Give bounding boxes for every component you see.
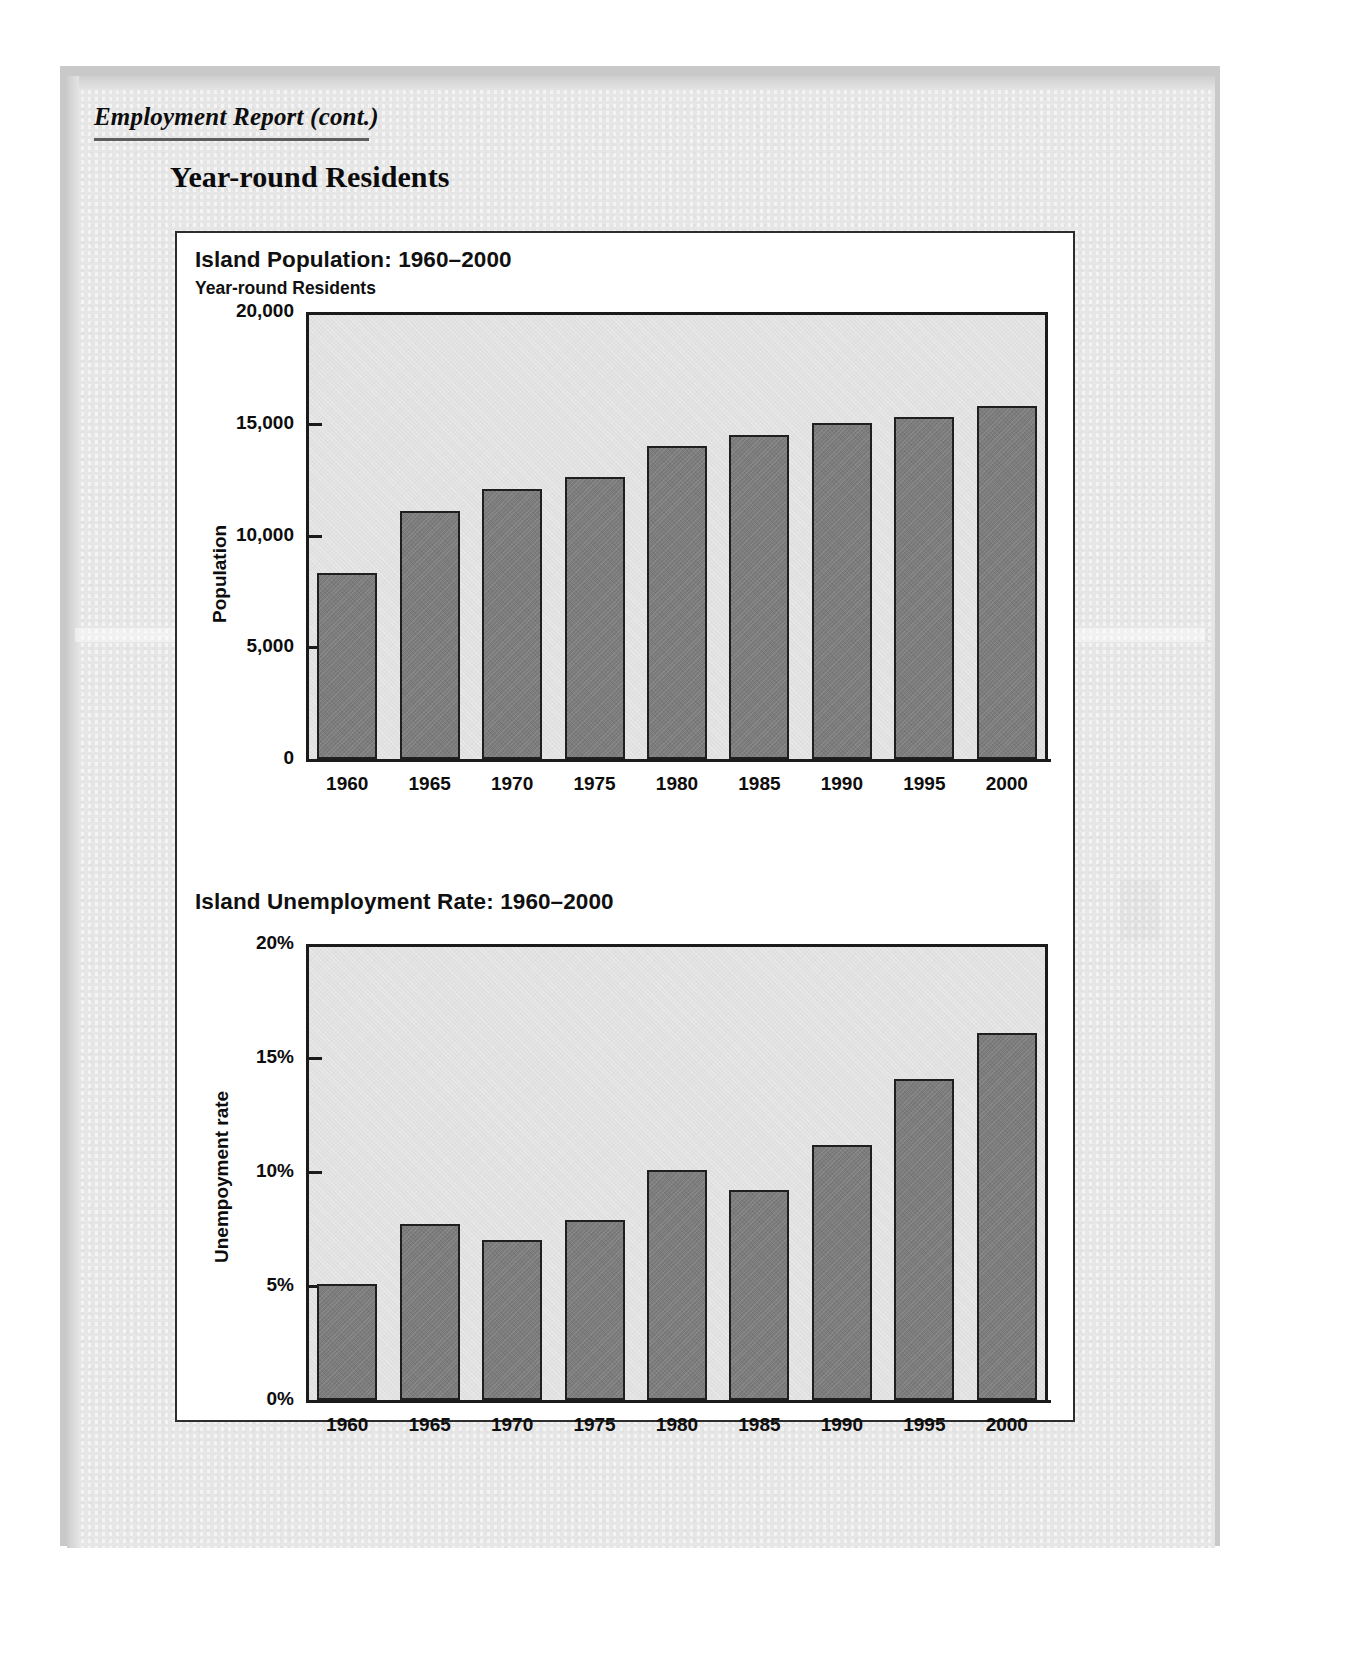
x-tick-label: 1970: [467, 773, 557, 795]
figure-container: Island Population: 1960–2000 Year-round …: [175, 231, 1075, 1422]
y-tick-label: 0%: [178, 1388, 294, 1410]
x-tick-label: 1960: [302, 773, 392, 795]
bar: [894, 417, 954, 759]
y-tick-mark: [309, 1057, 322, 1060]
y-tick-label: 0: [178, 747, 294, 769]
scanned-page-canvas: Employment Report (cont.) Year-round Res…: [0, 0, 1354, 1680]
x-tick-label: 1990: [797, 1414, 887, 1436]
bar: [647, 446, 707, 759]
x-tick-label: 1995: [879, 1414, 969, 1436]
y-tick-label: 5,000: [178, 635, 294, 657]
chart-population-x-axis: [306, 759, 1051, 762]
y-tick-label: 15%: [178, 1046, 294, 1068]
bar: [482, 489, 542, 759]
bar: [565, 477, 625, 759]
scan-artifact-smudge: [1120, 880, 1160, 940]
y-tick-label: 10%: [178, 1160, 294, 1182]
bar: [400, 511, 460, 759]
x-tick-label: 1960: [302, 1414, 392, 1436]
bar: [812, 1145, 872, 1400]
y-tick-label: 10,000: [178, 524, 294, 546]
chart-population: Island Population: 1960–2000 Year-round …: [177, 233, 1077, 833]
y-tick-label: 15,000: [178, 412, 294, 434]
x-tick-label: 2000: [962, 773, 1052, 795]
bar: [317, 573, 377, 759]
bar: [482, 1240, 542, 1400]
running-head-rule: [94, 138, 369, 141]
y-tick-label: 5%: [178, 1274, 294, 1296]
x-tick-label: 1970: [467, 1414, 557, 1436]
x-tick-label: 1980: [632, 1414, 722, 1436]
bar: [400, 1224, 460, 1400]
bar: [812, 423, 872, 759]
running-head: Employment Report (cont.): [94, 103, 734, 131]
bar: [894, 1079, 954, 1400]
x-tick-label: 1985: [714, 1414, 804, 1436]
y-tick-label: 20,000: [178, 300, 294, 322]
x-tick-label: 1965: [385, 773, 475, 795]
y-tick-label: 20%: [178, 932, 294, 954]
bar: [729, 1190, 789, 1400]
bar: [647, 1170, 707, 1400]
bar: [977, 1033, 1037, 1400]
y-tick-mark: [309, 1171, 322, 1174]
chart-unemployment-title: Island Unemployment Rate: 1960–2000: [195, 889, 614, 915]
chart-population-title: Island Population: 1960–2000: [195, 247, 512, 273]
page-title: Year-round Residents: [170, 160, 450, 194]
x-tick-label: 1975: [550, 773, 640, 795]
bar: [565, 1220, 625, 1400]
chart-unemployment-x-axis: [306, 1400, 1051, 1403]
bar: [729, 435, 789, 759]
x-tick-label: 1995: [879, 773, 969, 795]
page-edge-highlight-top: [67, 76, 1215, 90]
y-tick-mark: [309, 535, 322, 538]
x-tick-label: 2000: [962, 1414, 1052, 1436]
page-edge-highlight-left: [67, 76, 79, 1548]
bar: [317, 1284, 377, 1400]
chart-population-subtitle: Year-round Residents: [195, 278, 376, 299]
running-head-block: Employment Report (cont.): [94, 103, 734, 141]
chart-unemployment: Island Unemployment Rate: 1960–2000 Unem…: [177, 863, 1077, 1424]
x-tick-label: 1965: [385, 1414, 475, 1436]
x-tick-label: 1975: [550, 1414, 640, 1436]
x-tick-label: 1980: [632, 773, 722, 795]
bar: [977, 406, 1037, 759]
x-tick-label: 1990: [797, 773, 887, 795]
y-tick-mark: [309, 423, 322, 426]
x-tick-label: 1985: [714, 773, 804, 795]
